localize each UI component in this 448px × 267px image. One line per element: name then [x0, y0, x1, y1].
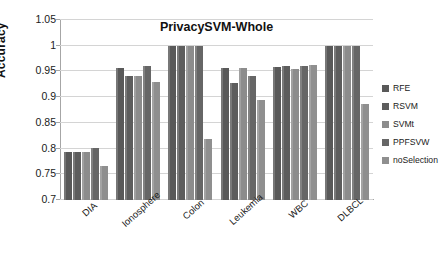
bar — [100, 166, 108, 200]
bar — [152, 82, 160, 200]
bar — [177, 46, 185, 200]
bar — [186, 46, 194, 200]
y-axis-tick-label: 0.7 — [41, 194, 56, 204]
y-axis-tick-label: 0.8 — [41, 143, 56, 153]
bar — [82, 152, 90, 200]
bar — [143, 66, 151, 200]
x-axis-label-cell: Ionosphere — [112, 201, 164, 257]
bar — [248, 76, 256, 200]
legend-swatch-icon — [382, 103, 389, 110]
x-axis-label-cell: Leukemia — [217, 201, 269, 257]
bar-groups — [60, 19, 373, 200]
bar — [91, 148, 99, 200]
y-axis-tick-label: 0.95 — [36, 65, 56, 75]
bar-group — [164, 19, 216, 200]
bar — [325, 46, 333, 200]
legend-swatch-icon — [382, 85, 389, 92]
bar-group — [321, 19, 373, 200]
bar — [73, 152, 81, 200]
bar — [134, 76, 142, 200]
bar-chart: Accuracy 0.70.750.80.850.90.9511.05 Priv… — [0, 0, 448, 267]
bar — [273, 67, 281, 200]
bar-group — [60, 19, 112, 200]
legend-label: RFE — [393, 83, 410, 93]
x-axis-label-cell: DLBCL — [321, 201, 373, 257]
bar — [239, 68, 247, 200]
x-axis-labels: DIAIonosphereColonLeukemiaWBCDLBCL — [60, 201, 373, 257]
bar — [221, 68, 229, 200]
x-axis-label-cell: WBC — [269, 201, 321, 257]
bar — [204, 139, 212, 200]
bar-group — [269, 19, 321, 200]
y-axis-tick-label: 0.9 — [41, 91, 56, 101]
bar — [64, 152, 72, 200]
bar — [125, 76, 133, 200]
legend-swatch-icon — [382, 139, 389, 146]
legend-item[interactable]: noSelection — [382, 155, 448, 165]
bar — [343, 46, 351, 200]
y-axis-tick-label: 1.05 — [36, 14, 56, 24]
chart-title: PrivacySVM-Whole — [60, 20, 373, 34]
bar — [116, 68, 124, 200]
legend-item[interactable]: RSVM — [382, 101, 448, 111]
bar — [334, 46, 342, 200]
x-axis-label-cell: DIA — [60, 201, 112, 257]
y-axis-tick-label: 0.85 — [36, 117, 56, 127]
bar — [291, 69, 299, 200]
bar — [230, 83, 238, 200]
x-axis-tick-label: WBC — [286, 198, 310, 221]
x-axis-label-cell: Colon — [164, 201, 216, 257]
x-axis-tick-label: DIA — [80, 200, 99, 219]
legend-label: RSVM — [393, 101, 418, 111]
bar — [361, 104, 369, 200]
legend-swatch-icon — [382, 121, 389, 128]
legend-item[interactable]: SVMt — [382, 119, 448, 129]
bar-group — [112, 19, 164, 200]
legend-label: SVMt — [393, 119, 414, 129]
y-axis-tick-label: 0.75 — [36, 168, 56, 178]
legend-item[interactable]: RFE — [382, 83, 448, 93]
bar — [282, 66, 290, 200]
legend-swatch-icon — [382, 157, 389, 164]
bar-group — [217, 19, 269, 200]
bar — [168, 46, 176, 200]
chart-legend: RFERSVMSVMtPPFSVWnoSelection — [382, 83, 448, 173]
legend-item[interactable]: PPFSVW — [382, 137, 448, 147]
bar — [300, 66, 308, 200]
y-axis-ticks: 0.70.750.80.850.90.9511.05 — [0, 19, 56, 200]
legend-label: PPFSVW — [393, 137, 429, 147]
bar — [309, 65, 317, 200]
bar — [195, 46, 203, 200]
x-axis-tick-label: Colon — [181, 197, 207, 222]
bar — [352, 46, 360, 200]
legend-label: noSelection — [393, 155, 438, 165]
bar — [257, 100, 265, 200]
